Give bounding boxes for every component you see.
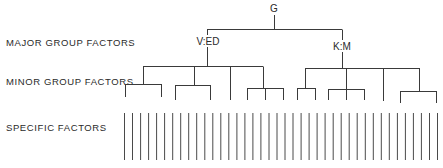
specific-factor-lines [125, 113, 438, 160]
hierarchy-tree [0, 0, 443, 168]
major-node-k-m: K:M [332, 41, 352, 52]
major-node-v-ed: V:ED [196, 36, 221, 47]
root-node-g: G [269, 3, 279, 14]
tree-lines [125, 15, 437, 103]
